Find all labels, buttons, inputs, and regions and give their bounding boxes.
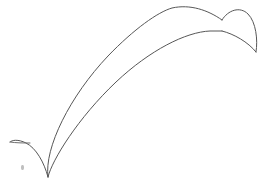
right-hook-return-path: [222, 31, 256, 52]
right-hook-path: [222, 10, 257, 52]
line-drawing: [0, 0, 266, 189]
left-hook-return-path: [10, 142, 30, 143]
speck-mark: [21, 165, 24, 170]
left-hook-path: [10, 140, 48, 177]
drawing-canvas: [0, 0, 266, 189]
inner-arc-path: [48, 31, 222, 177]
outer-arc-path: [48, 7, 222, 177]
